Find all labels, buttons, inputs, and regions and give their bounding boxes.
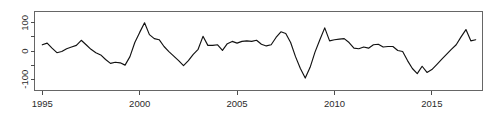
x-tick-label-1995: 1995: [32, 98, 53, 109]
chart-container: -1000100 19952000200520102015: [0, 0, 494, 122]
y-axis-tick-labels: -1000100: [19, 15, 30, 89]
chart-plot-svg: -1000100 19952000200520102015: [0, 0, 494, 122]
plot-frame-group: [35, 12, 483, 91]
x-tick-label-2000: 2000: [129, 98, 150, 109]
x-tick-label-2005: 2005: [227, 98, 248, 109]
x-tick-label-2015: 2015: [421, 98, 442, 109]
y-tick-label-100: 100: [19, 15, 30, 31]
series-group: [42, 23, 475, 78]
y-tick-label-0: 0: [19, 48, 30, 53]
y-axis-ticks: [31, 23, 35, 79]
x-tick-label-2010: 2010: [324, 98, 345, 109]
x-axis-ticks: [42, 91, 432, 95]
plot-frame: [35, 12, 483, 91]
y-tick-label--100: -100: [19, 70, 30, 89]
data-series-line: [42, 23, 475, 78]
x-axis-tick-labels: 19952000200520102015: [32, 98, 443, 109]
